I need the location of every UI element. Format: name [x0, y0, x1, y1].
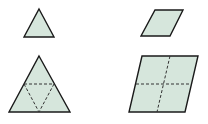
small-triangle — [24, 9, 54, 37]
small-parallelogram — [141, 10, 183, 36]
large-triangle — [9, 56, 70, 112]
large-parallelogram — [129, 56, 198, 112]
diagram-canvas — [0, 0, 208, 124]
